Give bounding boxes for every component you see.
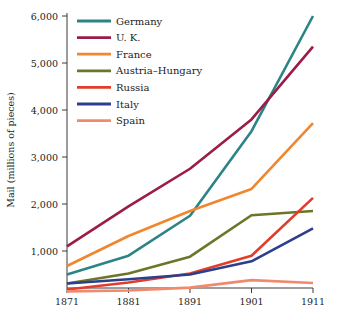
y-tick-label-2000: 2,000 <box>31 199 58 210</box>
x-tick-label-1871: 1871 <box>55 296 79 307</box>
legend-label-russia: Russia <box>116 82 149 93</box>
legend-label-u-k: U. K. <box>116 32 141 43</box>
y-tick-label-1000: 1,000 <box>31 246 58 257</box>
y-tick-label-6000: 6,000 <box>31 11 58 22</box>
x-axis-tick-labels: 1871 1881 1891 1901 1911 <box>55 296 325 307</box>
series-line-france <box>67 123 313 266</box>
y-axis-ticks <box>62 16 67 251</box>
x-tick-label-1901: 1901 <box>239 296 263 307</box>
x-tick-label-1911: 1911 <box>301 296 325 307</box>
x-tick-label-1891: 1891 <box>178 296 202 307</box>
y-tick-label-3000: 3,000 <box>31 152 58 163</box>
y-tick-label-4000: 4,000 <box>31 105 58 116</box>
legend-label-germany: Germany <box>116 16 163 27</box>
line-chart: 1,000 2,000 3,000 4,000 5,000 6,000 1871… <box>0 0 340 319</box>
y-axis-title: Mail (millions of pieces) <box>5 92 16 208</box>
legend-label-france: France <box>116 49 152 60</box>
legend-label-spain: Spain <box>116 115 145 126</box>
legend-label-italy: Italy <box>116 99 139 110</box>
chart-legend: GermanyU. K.FranceAustria–HungaryRussiaI… <box>77 16 202 127</box>
chart-canvas: 1,000 2,000 3,000 4,000 5,000 6,000 1871… <box>0 0 340 319</box>
legend-label-austria-hungary: Austria–Hungary <box>115 65 202 76</box>
y-axis-tick-labels: 1,000 2,000 3,000 4,000 5,000 6,000 <box>31 11 58 257</box>
series-group <box>67 16 313 291</box>
x-tick-label-1881: 1881 <box>116 296 140 307</box>
y-tick-label-5000: 5,000 <box>31 58 58 69</box>
